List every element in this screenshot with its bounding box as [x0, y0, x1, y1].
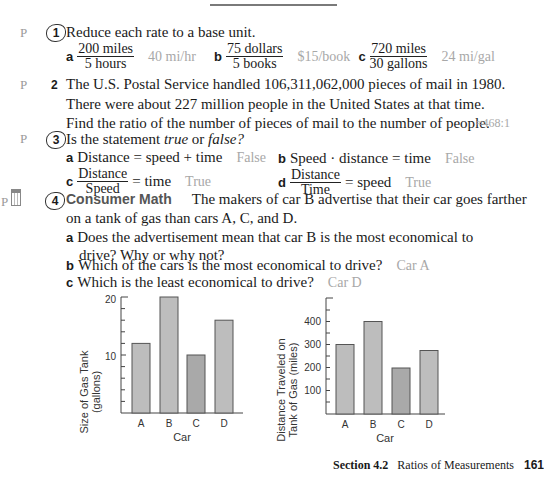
answer: False: [445, 151, 475, 166]
answer: 40 mi/hr: [148, 47, 196, 66]
prompt-text: or: [188, 131, 208, 147]
x-tick-label: C: [397, 419, 404, 430]
question-a: aDoes the advertisement mean that car B …: [66, 228, 473, 247]
problem-number-circle: 1: [46, 24, 66, 42]
y-ticks: [121, 297, 128, 401]
y-tick-label: 300: [304, 339, 321, 350]
margin-mark-p: P: [20, 131, 27, 147]
bar-a: [132, 343, 150, 413]
x-axis-label: Car: [173, 431, 191, 443]
calculator-icon: [11, 189, 21, 206]
x-tick-label: D: [220, 418, 227, 429]
x-tick-label: A: [138, 418, 145, 429]
statement-a: aDistance = speed + timeFalse: [66, 148, 266, 167]
numerator: 75 dollars: [226, 42, 284, 57]
problem-4-line1: Consumer MathThe makers of car B adverti…: [66, 190, 527, 209]
y-tick-label: 400: [304, 316, 321, 327]
x-tick-label: A: [342, 419, 349, 430]
numerator: 720 miles: [370, 42, 427, 57]
answer: False: [236, 150, 266, 165]
problem-1-items: a 200 miles5 hours 40 mi/hr b 75 dollars…: [66, 42, 495, 71]
bar-c: [392, 368, 410, 414]
problem-number: 1: [53, 26, 60, 40]
fraction: 720 miles30 gallons: [370, 42, 428, 71]
y-label-line2: (gallons): [90, 371, 102, 413]
denominator: 30 gallons: [370, 57, 428, 71]
section-title: Ratios of Measurements: [397, 458, 514, 472]
statement-text: Speed · distance = time: [290, 150, 431, 166]
problem-number: 4: [52, 194, 59, 208]
statement-text: Distance = speed + time: [77, 149, 222, 165]
y-tick-label: 200: [304, 362, 321, 373]
answer: 24 mi/gal: [442, 47, 495, 66]
prompt-false: false?: [208, 131, 244, 147]
numerator: Distance: [77, 167, 128, 182]
x-tick-label: C: [192, 418, 199, 429]
page-number: 161: [524, 458, 544, 472]
denominator: 5 books: [233, 57, 277, 71]
statement-text: = time: [132, 172, 171, 191]
answer: $15/book: [297, 47, 350, 66]
fraction: 75 dollars5 books: [226, 42, 284, 71]
y-label-line2: Tank of Gas (miles): [287, 343, 299, 438]
y-axis-label: Size of Gas Tank (gallons): [78, 350, 102, 433]
answer: Car A: [396, 258, 429, 273]
problem-prompt: Reduce each rate to a base unit.: [66, 23, 256, 42]
denominator: 5 hours: [85, 57, 127, 71]
bar-b: [364, 322, 382, 415]
problem-text-line: The U.S. Postal Service handled 106,311,…: [66, 75, 505, 94]
prompt-text: Is the statement: [66, 131, 164, 147]
item-label: b: [214, 47, 222, 66]
top-rule: [210, 4, 337, 6]
y-label-line1: Distance Traveled on: [275, 338, 287, 441]
problem-number: 3: [53, 133, 60, 147]
x-axis-label: Car: [376, 432, 394, 444]
statement-b: bSpeed · distance = timeFalse: [278, 149, 474, 168]
answer: Car D: [328, 275, 362, 290]
numerator: Distance: [290, 168, 341, 183]
problem-heading: Consumer Math: [66, 191, 172, 207]
problem-text: The makers of car B advertise that their…: [192, 191, 527, 207]
question-text: Does the advertisement mean that car B i…: [77, 229, 473, 245]
item-label: b: [278, 151, 286, 166]
y-tick-label: 10: [105, 351, 117, 362]
item-label: b: [66, 258, 74, 273]
answer: True: [185, 172, 211, 191]
distance-chart: Distance Traveled on Tank of Gas (miles)…: [265, 290, 445, 455]
bar-b: [160, 297, 178, 413]
x-tick-label: B: [370, 419, 377, 430]
section-number: Section 4.2: [333, 458, 388, 472]
item-label: a: [66, 150, 73, 165]
item-label: c: [66, 275, 73, 290]
page-number-wrap: 161: [524, 458, 544, 473]
bar-a: [336, 345, 354, 415]
fraction: 200 miles5 hours: [77, 42, 134, 71]
y-label-line1: Size of Gas Tank: [78, 350, 90, 433]
problem-text-line: on a tank of gas than cars A, C, and D.: [66, 209, 297, 228]
y-tick-label: 100: [304, 385, 321, 396]
item-label: a: [66, 230, 73, 245]
y-tick-label: 20: [105, 294, 117, 305]
problem-number: 2: [51, 78, 58, 92]
y-axis-label: Distance Traveled on Tank of Gas (miles): [275, 338, 299, 441]
gas-tank-chart: Size of Gas Tank (gallons) 20 10 A B C D…: [60, 290, 260, 455]
margin-mark-p: P: [20, 25, 27, 41]
x-tick-label: B: [166, 418, 173, 429]
problem-number-circle: 4: [45, 192, 65, 210]
answer: ≈468:1: [476, 116, 510, 131]
item-label: a: [66, 47, 73, 66]
bar-d: [420, 351, 438, 415]
bar-c: [187, 355, 205, 413]
item-label: c: [358, 47, 365, 66]
y-ticks: [326, 298, 333, 402]
bar-d: [215, 320, 233, 413]
margin-mark-p: P: [1, 194, 8, 210]
problem-text-line: There were about 227 million people in t…: [66, 95, 485, 114]
prompt-true: true: [164, 131, 188, 147]
item-label: c: [66, 172, 73, 191]
margin-mark-p: P: [20, 77, 27, 93]
problem-number-circle: 3: [46, 131, 66, 149]
question-text: Which of the cars is the most economical…: [78, 257, 382, 273]
question-text: Which is the least economical to drive?: [77, 274, 314, 290]
problem-prompt: Is the statement true or false?: [66, 130, 244, 149]
